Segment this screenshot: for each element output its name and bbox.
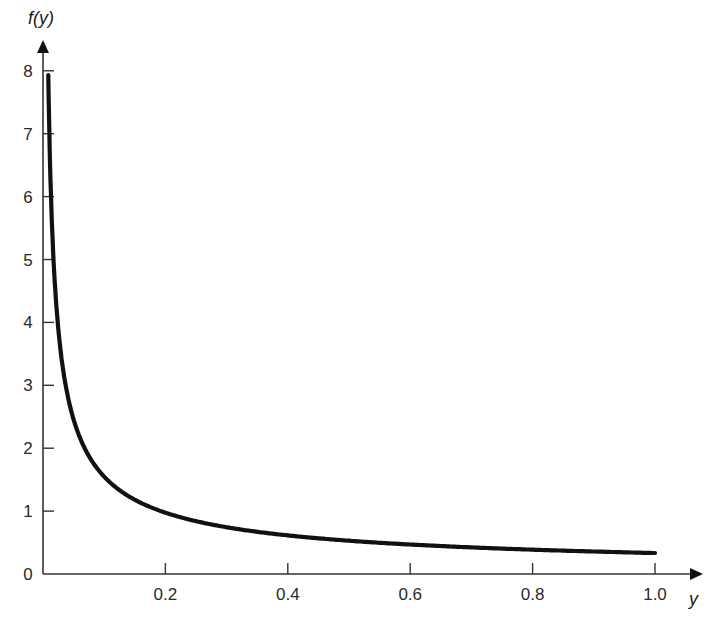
y-tick-label: 1 [23, 502, 32, 521]
x-tick-label: 0.4 [276, 585, 300, 604]
x-tick-label: 0.8 [521, 585, 545, 604]
y-tick-label: 8 [23, 62, 32, 81]
y-tick-label: 4 [23, 313, 32, 332]
x-tick-label: 0.6 [398, 585, 422, 604]
chart: 012345678 0.20.40.60.81.0 f(y) y [0, 0, 719, 623]
data-curve [48, 75, 655, 553]
x-tick-label: 1.0 [643, 585, 667, 604]
y-tick-label: 2 [23, 439, 32, 458]
x-axis-title: y [687, 589, 699, 609]
y-tick-label: 3 [23, 376, 32, 395]
y-axis-arrow-icon [37, 40, 49, 53]
y-axis-title: f(y) [28, 8, 54, 28]
y-tick-label: 5 [23, 251, 32, 270]
y-tick-label: 6 [23, 188, 32, 207]
y-tick-label: 7 [23, 125, 32, 144]
x-tick-label: 0.2 [154, 585, 178, 604]
x-axis-arrow-icon [690, 568, 703, 580]
x-ticks: 0.20.40.60.81.0 [154, 563, 667, 604]
y-tick-label: 0 [23, 565, 32, 584]
